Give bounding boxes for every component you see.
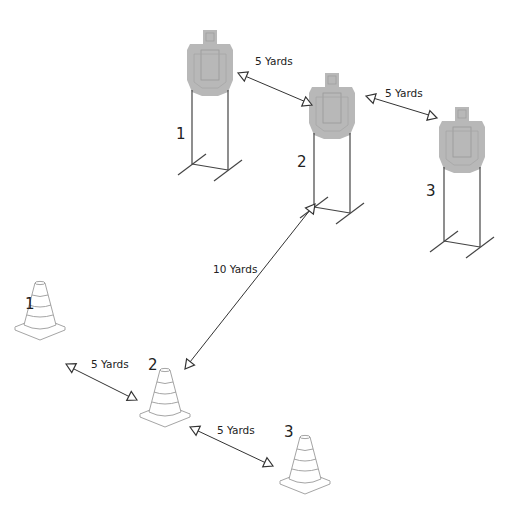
distance-label-c2-c3: 5 Yards <box>217 424 255 436</box>
target-3 <box>430 107 494 258</box>
cone-3-number: 3 <box>284 423 294 441</box>
target-1 <box>178 30 242 181</box>
target-2-number: 2 <box>297 153 307 171</box>
cone-1-number: 1 <box>25 295 35 313</box>
cone-2 <box>140 368 190 427</box>
target-1-number: 1 <box>176 125 186 143</box>
target-2 <box>300 73 364 224</box>
distance-label-t1-t2: 5 Yards <box>255 55 293 67</box>
cone-1 <box>15 281 65 340</box>
arrow-cone2-target2 <box>181 201 319 372</box>
cone-2-number: 2 <box>148 356 158 374</box>
target-3-number: 3 <box>426 182 436 200</box>
cone-3 <box>280 435 330 494</box>
drill-diagram <box>0 0 517 507</box>
distance-label-c1-c2: 5 Yards <box>91 358 129 370</box>
distance-label-c2-t2: 10 Yards <box>213 263 257 275</box>
arrow-target1-target2 <box>236 68 314 109</box>
distance-label-t2-t3: 5 Yards <box>385 87 423 99</box>
